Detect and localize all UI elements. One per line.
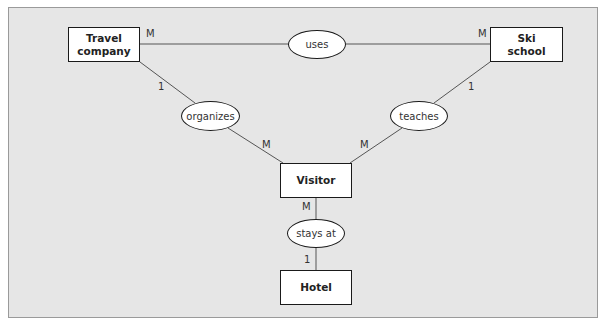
cardinality-organizes-travel: 1 <box>158 81 164 92</box>
cardinality-organizes-visitor: M <box>262 139 271 150</box>
relationship-label: stays at <box>296 228 336 239</box>
connector-ski-teaches <box>434 62 490 103</box>
relationship-teaches[interactable]: teaches <box>390 101 448 131</box>
entity-visitor[interactable]: Visitor <box>280 163 352 198</box>
entity-label-line1: Travel <box>86 32 122 45</box>
entity-label-line2: school <box>508 45 546 58</box>
entity-travel-company[interactable]: Travel company <box>68 27 140 62</box>
relationship-stays-at[interactable]: stays at <box>287 219 345 248</box>
relationship-label: uses <box>306 39 329 50</box>
entity-label: Hotel <box>300 281 332 294</box>
entity-label-line1: Ski <box>517 32 535 45</box>
relationship-organizes[interactable]: organizes <box>181 101 240 131</box>
connector-organizes-visitor <box>228 128 283 163</box>
cardinality-teaches-ski: 1 <box>468 81 474 92</box>
cardinality-uses-ski: M <box>478 28 487 39</box>
connector-teaches-visitor <box>350 128 402 163</box>
cardinality-teaches-visitor: M <box>360 139 369 150</box>
connector-travel-organizes <box>140 62 195 103</box>
cardinality-staysat-hotel: 1 <box>304 254 310 265</box>
cardinality-staysat-visitor: M <box>302 201 311 212</box>
entity-ski-school[interactable]: Ski school <box>490 27 563 62</box>
relationship-uses[interactable]: uses <box>288 30 346 59</box>
entity-hotel[interactable]: Hotel <box>280 270 352 305</box>
entity-label-line2: company <box>77 45 130 58</box>
cardinality-uses-travel: M <box>146 28 155 39</box>
relationship-label: organizes <box>186 111 234 122</box>
relationship-label: teaches <box>399 111 438 122</box>
entity-label: Visitor <box>297 174 336 187</box>
